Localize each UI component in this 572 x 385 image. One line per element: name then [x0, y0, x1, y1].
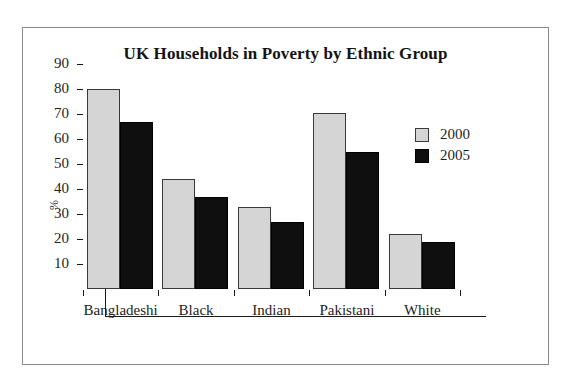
chart-legend: 20002005 [415, 124, 470, 166]
legend-label-2005: 2005 [440, 147, 470, 164]
legend-item-2000: 2000 [415, 124, 470, 145]
y-axis-tick-label: 30 [35, 206, 69, 221]
x-axis-tick [460, 290, 461, 296]
x-axis-label-bangladeshi: Bangladeshi [83, 302, 158, 319]
y-axis-tick-label: 90 [35, 56, 69, 71]
legend-swatch-2005 [415, 149, 429, 163]
bar-bangladeshi-2005 [120, 122, 153, 290]
y-axis-tick-label: 80 [35, 81, 69, 96]
legend-swatch-2000 [415, 128, 429, 142]
bar-indian-2005 [271, 222, 304, 290]
y-axis-tick-label: 70 [35, 106, 69, 121]
x-axis-tick [309, 290, 310, 296]
chart-frame: UK Households in Poverty by Ethnic Group… [22, 27, 549, 365]
x-axis-label-indian: Indian [234, 302, 309, 319]
chart-title: UK Households in Poverty by Ethnic Group [23, 44, 548, 64]
x-axis-label-white: White [385, 302, 460, 319]
legend-label-2000: 2000 [440, 126, 470, 143]
y-axis-tick-label: 60 [35, 131, 69, 146]
y-axis-tick-label: 20 [35, 231, 69, 246]
y-axis-tick-label: 10 [35, 256, 69, 271]
y-axis-tick-label: 50 [35, 156, 69, 171]
y-axis-tick-label: 40 [35, 181, 69, 196]
x-axis-label-pakistani: Pakistani [309, 302, 384, 319]
bar-bangladeshi-2000 [87, 89, 120, 289]
x-axis-tick [83, 290, 84, 296]
bar-indian-2000 [238, 207, 271, 290]
bar-black-2005 [195, 197, 228, 290]
bar-black-2000 [162, 179, 195, 289]
x-axis-label-black: Black [158, 302, 233, 319]
x-axis-tick [234, 290, 235, 296]
bar-pakistani-2005 [346, 152, 379, 290]
bar-pakistani-2000 [313, 113, 346, 289]
bar-white-2000 [389, 234, 422, 289]
plot-area [83, 64, 460, 289]
x-axis-tick [385, 290, 386, 296]
x-axis-tick [158, 290, 159, 296]
legend-item-2005: 2005 [415, 145, 470, 166]
bar-white-2005 [422, 242, 455, 290]
